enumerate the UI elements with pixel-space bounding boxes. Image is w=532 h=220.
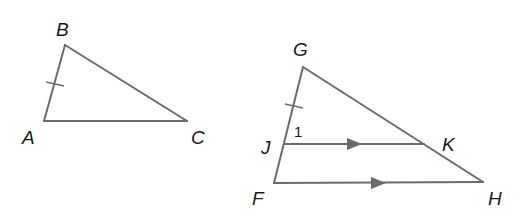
label-g: G (293, 39, 308, 60)
label-h: H (488, 188, 502, 209)
label-b: B (56, 19, 69, 40)
triangle-fgh: G J F K H 1 (252, 39, 502, 209)
segment-bc (65, 45, 187, 121)
label-k: K (442, 134, 456, 155)
segment-gh (303, 67, 483, 182)
geometry-diagram: B A C G J F K H 1 (0, 0, 532, 220)
triangle-abc: B A C (21, 19, 205, 148)
label-a: A (21, 127, 35, 148)
parallel-arrow-fh (371, 177, 386, 189)
parallel-arrow-jk (347, 138, 362, 150)
segment-ab (44, 45, 65, 121)
label-f: F (252, 188, 265, 209)
label-j: J (260, 137, 271, 158)
angle-1-label: 1 (294, 123, 302, 140)
label-c: C (191, 127, 205, 148)
